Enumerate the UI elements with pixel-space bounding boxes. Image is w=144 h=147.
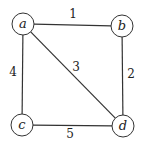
edge-weight-label: 4: [9, 65, 17, 79]
edge-a-c: [22, 35, 23, 114]
node-d: d: [112, 115, 134, 137]
edge-line: [122, 37, 123, 115]
edge-weight-label: 3: [72, 60, 80, 74]
edge-line: [33, 125, 112, 126]
edges: [22, 24, 123, 126]
edge-line: [22, 35, 23, 114]
node-label: c: [18, 117, 26, 132]
node-b: b: [111, 15, 133, 37]
edge-line: [34, 24, 111, 26]
node-label: b: [118, 18, 126, 33]
weighted-graph-diagram: abcd 12345: [0, 0, 144, 147]
edge-a-b: [34, 24, 111, 26]
edge-weight-label: 5: [66, 127, 74, 141]
node-label: d: [119, 118, 127, 133]
node-label: a: [19, 16, 27, 31]
edge-weight-label: 2: [127, 67, 135, 81]
edge-a-d: [31, 32, 116, 118]
node-a: a: [12, 13, 34, 35]
edge-line: [31, 32, 116, 118]
edge-b-d: [122, 37, 123, 115]
edge-c-d: [33, 125, 112, 126]
edge-weight-label: 1: [69, 7, 77, 21]
node-c: c: [11, 114, 33, 136]
